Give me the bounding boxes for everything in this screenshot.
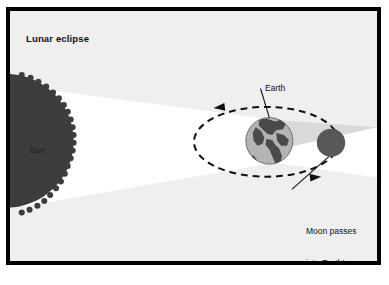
diagram-title: Lunar eclipse [26, 33, 89, 44]
moon-shadow-caption: Moon passes into Earth's shadow [306, 204, 357, 265]
moon-caption-line-2: into Earth's [306, 258, 357, 265]
sun-label: Sun [30, 145, 45, 155]
moon-body [317, 129, 345, 157]
earth-body [246, 118, 293, 165]
moon-caption-line-1: Moon passes [306, 226, 357, 237]
earth-label: Earth [265, 83, 285, 93]
lunar-eclipse-figure: Lunar eclipse Sun Earth Moon passes into… [0, 0, 389, 285]
diagram-frame: Lunar eclipse Sun Earth Moon passes into… [6, 7, 381, 265]
